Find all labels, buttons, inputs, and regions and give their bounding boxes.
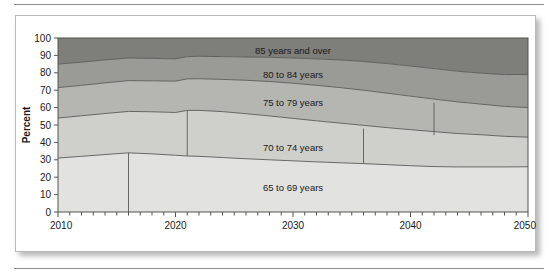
x-tick-label: 2050 [514, 220, 537, 231]
series-label-2: 75 to 79 years [263, 97, 323, 108]
series-label-4: 85 years and over [255, 45, 331, 56]
y-tick-label: 30 [40, 154, 52, 165]
y-tick-label: 10 [40, 189, 52, 200]
figure-card: 0102030405060708090100201020202030204020… [15, 15, 536, 252]
x-tick-label: 2010 [50, 220, 73, 231]
y-tick-label: 70 [40, 85, 52, 96]
series-label-1: 70 to 74 years [263, 142, 323, 153]
y-tick-label: 0 [45, 207, 51, 218]
stacked-area-chart: 0102030405060708090100201020202030204020… [16, 16, 537, 253]
series-label-3: 80 to 84 years [263, 69, 323, 80]
y-tick-label: 40 [40, 137, 52, 148]
chart-container: 0102030405060708090100201020202030204020… [16, 16, 537, 253]
y-tick-label: 100 [34, 33, 51, 44]
series-label-0: 65 to 69 years [263, 182, 323, 193]
y-tick-label: 60 [40, 102, 52, 113]
x-tick-label: 2040 [399, 220, 422, 231]
bottom-divider-rule [14, 268, 544, 269]
y-tick-label: 80 [40, 67, 52, 78]
y-tick-label: 50 [40, 120, 52, 131]
top-divider-rule [14, 4, 544, 5]
y-tick-label: 90 [40, 50, 52, 61]
x-tick-label: 2020 [164, 220, 187, 231]
y-tick-label: 20 [40, 172, 52, 183]
x-tick-label: 2030 [282, 220, 305, 231]
y-axis-title: Percent [21, 106, 32, 143]
figure-page: 0102030405060708090100201020202030204020… [0, 0, 558, 274]
